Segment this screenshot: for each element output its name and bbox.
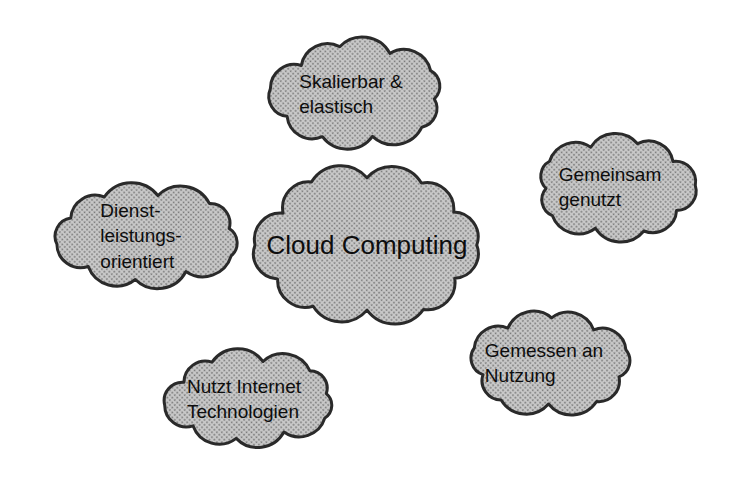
cloud-diagram: Cloud Computing Skalierbar & elastisch G… — [0, 0, 736, 483]
cloud-label-gemessen-an-nutzung: Gemessen an Nutzung — [450, 302, 638, 424]
cloud-gemessen-an-nutzung: Gemessen an Nutzung — [456, 302, 644, 424]
cloud-gemeinsam-genutzt: Gemeinsam genutzt — [522, 126, 710, 248]
cloud-label-nutzt-internet-technologien: Nutzt Internet Technologien — [144, 344, 344, 454]
cloud-label-dienstleistungsorientiert: Dienst- leistungs- orientiert — [34, 176, 248, 296]
cloud-label-gemeinsam-genutzt: Gemeinsam genutzt — [516, 126, 704, 248]
cloud-label-skalierbar-elastisch: Skalierbar & elastisch — [250, 30, 452, 158]
cloud-skalierbar-elastisch: Skalierbar & elastisch — [256, 30, 458, 158]
cloud-dienstleistungsorientiert: Dienst- leistungs- orientiert — [40, 176, 254, 296]
cloud-nutzt-internet-technologien: Nutzt Internet Technologien — [150, 344, 350, 454]
